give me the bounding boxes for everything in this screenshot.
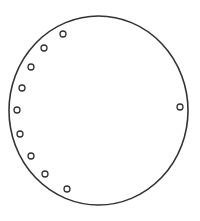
diagram-canvas: [0, 0, 200, 221]
background: [0, 0, 200, 221]
